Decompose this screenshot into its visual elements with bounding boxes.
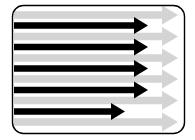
arrow-diagram-figure [0,0,195,140]
arrow-diagram-canvas [0,0,195,140]
